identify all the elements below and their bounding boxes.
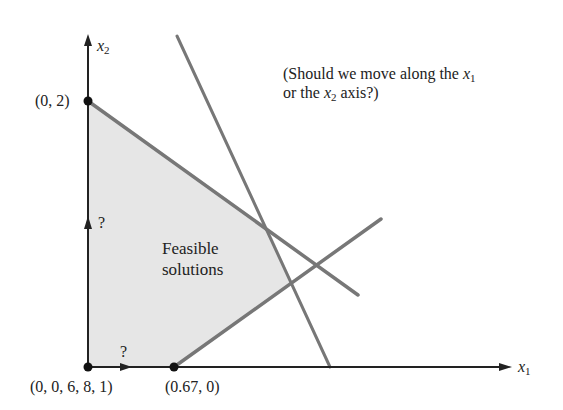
y-axis-arrow-icon	[84, 34, 92, 46]
annotation: (Should we move along the x1 or the x2 a…	[283, 64, 476, 102]
question-mark-horizontal: ?	[120, 343, 127, 361]
point-label-0.67-0: (0.67, 0)	[165, 378, 220, 396]
point-label-0-2: (0, 2)	[35, 92, 70, 110]
x-axis-arrow-icon	[499, 363, 512, 371]
question-mark-vertical: ?	[98, 214, 105, 232]
feasible-region	[88, 101, 292, 367]
point-label-origin: (0, 0, 6, 8, 1)	[30, 378, 113, 396]
diagram-canvas	[0, 0, 563, 410]
point-origin	[84, 363, 93, 372]
region-label-line1: Feasible	[162, 238, 223, 259]
y-axis-label: x2	[97, 37, 110, 55]
point-0-2	[84, 97, 93, 106]
annotation-line2: or the x2 axis?)	[283, 83, 476, 102]
annotation-line1: (Should we move along the x1	[283, 64, 476, 83]
point-0.67-0	[170, 363, 179, 372]
region-label-line2: solutions	[162, 259, 223, 280]
feasible-region-label: Feasible solutions	[162, 238, 223, 280]
x-axis-label: x1	[518, 358, 531, 376]
